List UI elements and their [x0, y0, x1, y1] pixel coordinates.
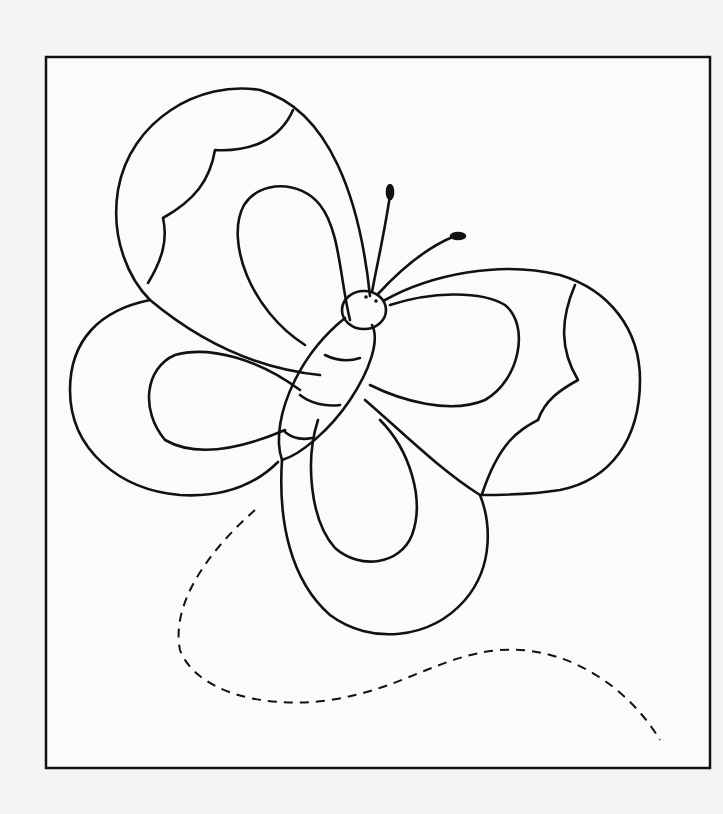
head-dot: [374, 299, 378, 303]
coloring-page: [0, 0, 723, 814]
antenna-left-tip: [387, 185, 393, 199]
head-dot: [364, 295, 368, 299]
antenna-right-tip: [451, 233, 465, 239]
